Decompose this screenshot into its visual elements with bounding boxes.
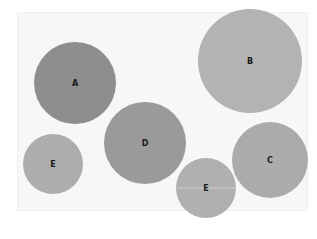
bubble-label: B (247, 57, 253, 66)
bubble-d: D (104, 102, 186, 184)
bubble-label: D (142, 139, 149, 148)
bubble-label: A (72, 79, 79, 88)
bubble-label: E (50, 160, 55, 169)
bubble-label: E (203, 184, 208, 193)
bubble-e: E (176, 158, 236, 218)
bubble-e: E (23, 134, 83, 194)
bubble-b: B (198, 9, 302, 113)
bubble-c: C (232, 122, 308, 198)
bubble-canvas: ABDECE (0, 0, 317, 239)
bubble-a: A (34, 42, 116, 124)
bubble-label: C (267, 156, 273, 165)
